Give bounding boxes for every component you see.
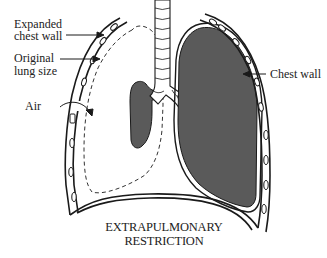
extrapulmonary-restriction-diagram: Expanded chest wall Original lung size A… xyxy=(0,0,327,258)
expanded-chest-wall-label-2: chest wall xyxy=(14,29,63,43)
original-lung-size-label-1: Original xyxy=(14,51,55,65)
caption-line-1: EXTRAPULMONARY xyxy=(105,220,223,234)
air-label: Air xyxy=(25,99,41,113)
left-rib-ovals xyxy=(69,23,119,202)
caption-line-2: RESTRICTION xyxy=(124,234,203,248)
original-lung-size-label-2: lung size xyxy=(14,64,57,78)
chest-wall-label: Chest wall xyxy=(270,67,322,81)
